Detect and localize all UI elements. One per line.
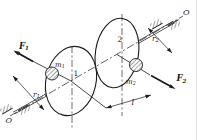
label-radius-2: r2 bbox=[152, 34, 160, 43]
figure-canvas: O O F1 F2 m1 m2 r1 r2 1 2 l bbox=[0, 0, 196, 140]
force-2-arrow bbox=[151, 76, 176, 90]
label-force-1: F1 bbox=[18, 41, 29, 52]
mass-1-circle bbox=[46, 67, 59, 80]
label-disk-2: 2 bbox=[118, 35, 123, 44]
mechanics-diagram: O O F1 F2 m1 m2 r1 r2 1 2 l bbox=[0, 0, 196, 140]
label-axis-o-bottom: O bbox=[6, 116, 13, 125]
label-length-l: l bbox=[132, 98, 135, 107]
label-radius-1: r1 bbox=[33, 90, 40, 99]
label-axis-o-top: O bbox=[183, 8, 190, 17]
label-disk-1: 1 bbox=[74, 69, 79, 78]
dimension-l bbox=[106, 95, 151, 109]
label-mass-2: m2 bbox=[126, 78, 136, 86]
mass-2-circle bbox=[130, 59, 143, 72]
label-force-2: F2 bbox=[176, 73, 187, 84]
force-1-arrow bbox=[14, 51, 34, 62]
